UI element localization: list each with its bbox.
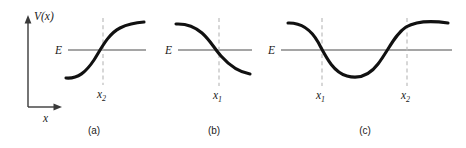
panel-b-energy-label: E bbox=[164, 44, 172, 56]
x-axis-arrowhead bbox=[54, 104, 63, 111]
panel-b-x1-sub: 1 bbox=[218, 95, 222, 104]
panel-a: E x2 (a) bbox=[54, 18, 146, 136]
panel-c-turning-point-label-x1: x1 bbox=[315, 89, 325, 104]
y-axis-label: V(x) bbox=[34, 10, 54, 23]
panel-c-energy-label: E bbox=[267, 44, 275, 56]
panel-b-turning-point-label-x1: x1 bbox=[212, 89, 222, 104]
figure-container: V(x) x E x2 (a) E bbox=[0, 0, 466, 148]
svg-text:x1: x1 bbox=[315, 89, 325, 104]
x-axis-label: x bbox=[42, 112, 49, 124]
panel-a-energy-label: E bbox=[54, 44, 62, 56]
svg-text:x1: x1 bbox=[212, 89, 222, 104]
panel-a-x2-sub: 2 bbox=[102, 94, 106, 103]
svg-text:x2: x2 bbox=[96, 88, 106, 103]
panel-c-x2-sub: 2 bbox=[406, 95, 410, 104]
axes-group: V(x) x bbox=[25, 10, 62, 124]
panel-c-turning-point-label-x2: x2 bbox=[400, 89, 410, 104]
panel-c: E x1 x2 (c) bbox=[267, 18, 452, 136]
panel-a-turning-point-label-x2: x2 bbox=[96, 88, 106, 103]
panel-c-x1-sub: 1 bbox=[321, 95, 325, 104]
panel-a-caption: (a) bbox=[88, 125, 100, 136]
panel-b-caption: (b) bbox=[208, 125, 220, 136]
potential-energy-figure: V(x) x E x2 (a) E bbox=[0, 0, 466, 148]
y-axis-arrowhead bbox=[25, 15, 32, 24]
panel-b-potential-curve bbox=[176, 24, 250, 74]
svg-text:x2: x2 bbox=[400, 89, 410, 104]
panel-b: E x1 (b) bbox=[164, 18, 252, 136]
panel-c-caption: (c) bbox=[359, 125, 371, 136]
